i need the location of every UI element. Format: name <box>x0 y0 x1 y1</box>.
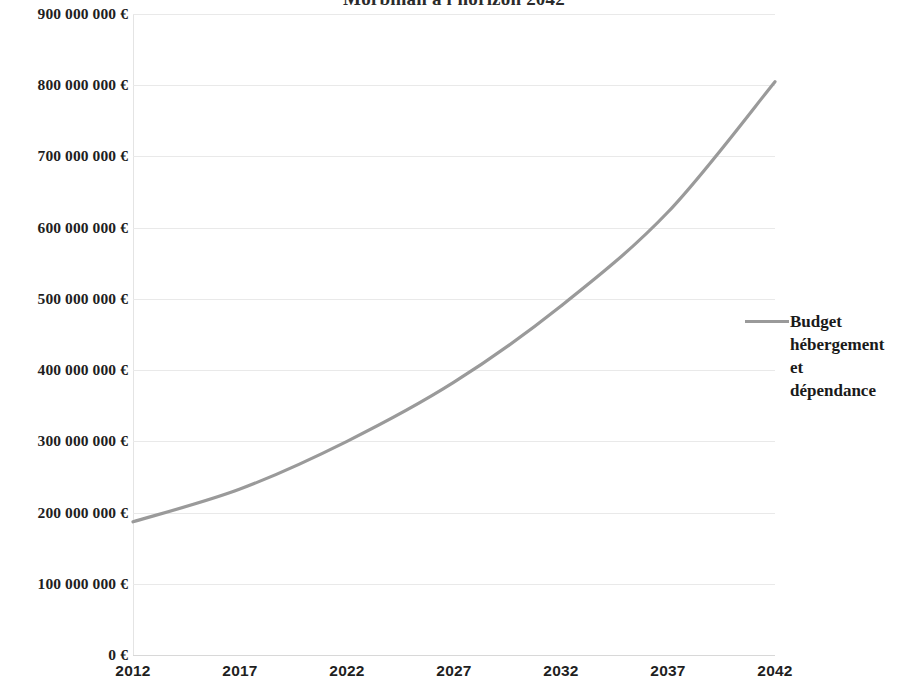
y-axis-tick-label: 500 000 000 € <box>38 290 128 308</box>
gridline <box>133 655 775 656</box>
x-axis-tick-label: 2027 <box>436 662 471 680</box>
y-axis-tick-label: 800 000 000 € <box>38 76 128 94</box>
x-axis-tick-label: 2042 <box>757 662 792 680</box>
y-axis-tick-label: 600 000 000 € <box>38 219 128 237</box>
gridline <box>133 156 775 157</box>
gridline <box>133 441 775 442</box>
gridline <box>133 299 775 300</box>
gridline <box>133 370 775 371</box>
chart-title: Morbihan à l'horizon 2042 <box>133 0 775 10</box>
legend-label-line: et <box>790 356 922 379</box>
x-axis-tick-label: 2017 <box>222 662 257 680</box>
gridline <box>133 513 775 514</box>
legend-entry-label: Budgethébergementetdépendance <box>790 310 922 402</box>
gridline <box>133 14 775 15</box>
plot-area <box>133 14 775 655</box>
y-axis-tick-label: 100 000 000 € <box>38 575 128 593</box>
x-axis-tick-label: 2012 <box>115 662 150 680</box>
chart-container: Morbihan à l'horizon 2042 0 €100 000 000… <box>0 0 923 692</box>
x-axis-tick-label: 2032 <box>543 662 578 680</box>
legend-label-line: dépendance <box>790 379 922 402</box>
gridline <box>133 584 775 585</box>
gridline <box>133 85 775 86</box>
y-axis-tick-label: 300 000 000 € <box>38 432 128 450</box>
y-axis-tick-label: 200 000 000 € <box>38 504 128 522</box>
y-axis-tick-label: 700 000 000 € <box>38 147 128 165</box>
chart-legend: Budgethébergementetdépendance <box>745 310 923 402</box>
legend-line-swatch <box>745 320 789 323</box>
legend-label-line: hébergement <box>790 333 922 356</box>
y-axis-tick-label: 900 000 000 € <box>38 5 128 23</box>
y-axis-tick-label: 400 000 000 € <box>38 361 128 379</box>
gridline <box>133 228 775 229</box>
legend-label-line: Budget <box>790 310 922 333</box>
x-axis-tick-label: 2022 <box>329 662 364 680</box>
x-axis-tick-label: 2037 <box>650 662 685 680</box>
